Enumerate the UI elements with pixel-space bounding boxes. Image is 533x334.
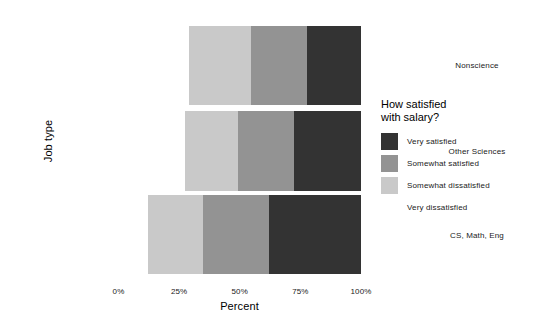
bar-segment [119,195,149,274]
legend-label: Somewhat satisfied [407,159,479,168]
bar-segment [189,26,251,105]
x-tick-label-0: 0% [89,287,149,296]
legend-label: Very satisfied [407,137,457,146]
bar-segment [203,195,269,274]
bar-cs-math-eng [119,195,362,274]
legend-title-line-2: with salary? [381,111,531,124]
legend-item[interactable]: Somewhat satisfied [381,152,531,174]
legend-title-line-1: How satisfied [381,98,531,111]
x-tick-label-25: 25% [149,287,209,296]
bar-segment [185,111,238,191]
legend-swatch [381,199,398,216]
x-axis-title: Percent [118,300,361,312]
bar-other-sciences [119,111,362,191]
x-tick-label-100: 100% [331,287,391,296]
stacked-bar-chart: Job type Nonscience Other Sciences CS, M… [0,0,533,334]
legend-items: Very satisfiedSomewhat satisfiedSomewhat… [381,130,531,218]
legend: How satisfied with salary? Very satisfie… [381,98,531,218]
legend-swatch [381,155,398,172]
legend-item[interactable]: Very dissatisfied [381,196,531,218]
bar-segment [238,111,294,191]
legend-item[interactable]: Somewhat dissatisfied [381,174,531,196]
legend-item[interactable]: Very satisfied [381,130,531,152]
bar-segment [269,195,361,274]
legend-swatch [381,133,398,150]
x-tick-label-75: 75% [270,287,330,296]
x-tick-label-50: 50% [210,287,270,296]
legend-swatch [381,177,398,194]
legend-label: Very dissatisfied [407,203,467,212]
bar-segment [119,26,190,105]
bar-segment [251,26,307,105]
bar-segment [119,111,185,191]
bar-nonscience [119,26,362,105]
bar-segment [307,26,361,105]
bar-segment [148,195,203,274]
legend-label: Somewhat dissatisfied [407,181,490,190]
bar-segment [294,111,361,191]
